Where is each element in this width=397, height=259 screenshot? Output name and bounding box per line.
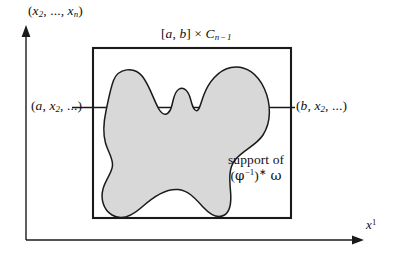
product-box-label: [a, b] × Cn − 1 [a, b] × C n−1	[161, 26, 232, 43]
right-endpoint-label: (b, x2, ...) (b, x2, …)	[296, 98, 347, 115]
y-axis-label: (x2, ..., xn) (x2, …, xn)	[28, 3, 83, 20]
left-endpoint-text: (a, x2, ...)	[31, 98, 82, 113]
x-axis-label: x1 x1	[366, 218, 376, 233]
support-annotation: support of (φ−1)∗ ω (φ−1)* ω	[228, 152, 284, 183]
left-endpoint-label: (a, x2, ...) (a, x2, …)	[31, 98, 82, 115]
x-axis-label-text: x1	[366, 217, 376, 232]
support-blob	[102, 67, 269, 217]
support-annotation-line1: support of	[228, 152, 284, 167]
y-axis-label-text: (x2, ..., xn)	[28, 3, 83, 18]
right-endpoint-text: (b, x2, ...)	[296, 98, 347, 113]
x-axis	[26, 236, 364, 245]
support-annotation-line2: (φ−1)∗ ω	[228, 168, 284, 183]
y-axis	[22, 25, 31, 240]
product-box-label-text: [a, b] × Cn − 1	[161, 26, 232, 41]
figure-canvas: (x2, ..., xn) (x2, …, xn) [a, b] × Cn − …	[0, 0, 397, 259]
